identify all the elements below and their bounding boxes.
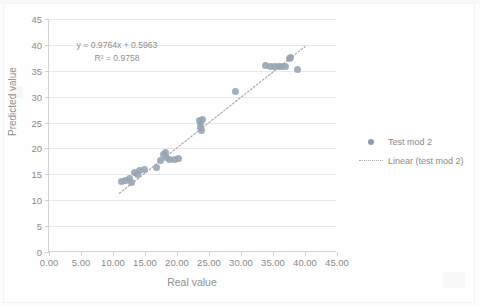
x-tick-mark <box>209 252 210 256</box>
x-tick-mark <box>177 252 178 256</box>
chart-legend: Test mod 2 Linear (test mod 2) <box>358 132 476 170</box>
x-tick-label: 15.00 <box>133 257 157 268</box>
x-tick-label: 40.00 <box>293 257 317 268</box>
dotted-line-icon <box>358 160 384 161</box>
data-point[interactable] <box>128 179 135 186</box>
x-tick-mark <box>241 252 242 256</box>
x-tick-label: 20.00 <box>165 257 189 268</box>
y-tick-label: 30 <box>31 91 42 102</box>
y-tick-label: 35 <box>31 65 42 76</box>
legend-label: Test mod 2 <box>384 137 432 147</box>
x-tick-mark <box>273 252 274 256</box>
legend-item-linear-test-mod-2[interactable]: Linear (test mod 2) <box>358 151 476 170</box>
x-tick-mark <box>81 252 82 256</box>
y-tick-label: 25 <box>31 117 42 128</box>
x-tick-mark <box>145 252 146 256</box>
x-tick-mark <box>113 252 114 256</box>
x-tick-label: 25.00 <box>197 257 221 268</box>
y-tick-label: 10 <box>31 195 42 206</box>
x-tick-mark <box>49 252 50 256</box>
y-tick-label: 5 <box>37 221 42 232</box>
legend-item-test-mod-2[interactable]: Test mod 2 <box>358 132 476 151</box>
r-squared-text: R² = 0.9758 <box>62 52 172 65</box>
scatter-chart: Predicted value Real value 0510152025303… <box>0 0 480 307</box>
x-tick-label: 45.00 <box>325 257 349 268</box>
data-point[interactable] <box>282 63 289 70</box>
x-tick-label: 30.00 <box>229 257 253 268</box>
y-tick-label: 15 <box>31 169 42 180</box>
y-tick-label: 20 <box>31 143 42 154</box>
scatter-marker-icon <box>358 139 384 145</box>
y-axis-title: Predicted value <box>7 67 18 136</box>
x-tick-label: 35.00 <box>261 257 285 268</box>
x-tick-mark <box>337 252 338 256</box>
trendline-equation-annotation: y = 0.9764x + 0.5963 R² = 0.9758 <box>62 39 172 65</box>
x-tick-label: 0.00 <box>40 257 59 268</box>
y-tick-label: 40 <box>31 39 42 50</box>
y-tick-label: 45 <box>31 14 42 25</box>
legend-label: Linear (test mod 2) <box>384 156 464 166</box>
y-tick-label: 0 <box>37 247 42 258</box>
x-tick-label: 5.00 <box>72 257 91 268</box>
x-tick-label: 10.00 <box>101 257 125 268</box>
equation-text: y = 0.9764x + 0.5963 <box>62 39 172 52</box>
x-axis-title: Real value <box>48 276 336 288</box>
data-point[interactable] <box>141 166 148 173</box>
x-tick-mark <box>305 252 306 256</box>
